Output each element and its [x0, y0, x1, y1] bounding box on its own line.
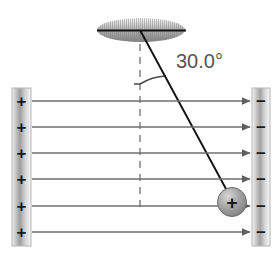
left-plate-charge: + [17, 223, 27, 242]
angle-arc [140, 76, 166, 84]
left-plate-charge: + [17, 92, 27, 111]
right-plate-charge: − [256, 118, 266, 137]
charged-ball: + [218, 188, 247, 217]
ceiling-support [97, 18, 186, 42]
left-plate-charge: + [17, 170, 27, 189]
left-plate-charge: + [17, 197, 27, 216]
physics-diagram: 30.0° + + + + + + − − − − − − [0, 0, 279, 264]
right-plate-charge: − [256, 223, 266, 242]
electric-field-lines [32, 101, 250, 232]
left-plate-charge: + [17, 144, 27, 163]
right-plate-charge: − [256, 92, 266, 111]
right-plate-charge: − [256, 197, 266, 216]
diagram-canvas: 30.0° + + + + + + − − − − − − [0, 0, 279, 264]
ball-charge-sign: + [226, 192, 237, 213]
left-plate: + + + + + + [12, 88, 31, 246]
right-plate-charge: − [256, 170, 266, 189]
right-plate: − − − − − − [252, 88, 270, 246]
right-plate-charge: − [256, 144, 266, 163]
left-plate-charge: + [17, 118, 27, 137]
angle-label: 30.0° [176, 50, 223, 72]
angle-indicator: 30.0° [134, 50, 223, 84]
